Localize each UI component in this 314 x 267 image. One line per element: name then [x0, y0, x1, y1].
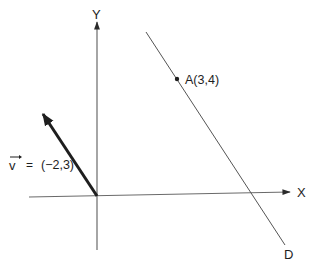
line-d-label: D — [284, 247, 293, 262]
vector-line-diagram: X Y D A(3,4) v = (−2,3) — [0, 0, 314, 267]
point-a-label: A(3,4) — [185, 73, 219, 87]
vector-v — [43, 114, 97, 196]
vector-v-label: v = (−2,3) — [9, 155, 74, 173]
vector-name: v — [9, 158, 16, 173]
line-d — [146, 32, 285, 245]
vector-components: (−2,3) — [41, 158, 74, 172]
vector-equals: = — [26, 158, 33, 172]
x-axis-label: X — [297, 185, 306, 200]
point-a-dot — [175, 77, 179, 81]
y-axis-label: Y — [92, 7, 101, 22]
